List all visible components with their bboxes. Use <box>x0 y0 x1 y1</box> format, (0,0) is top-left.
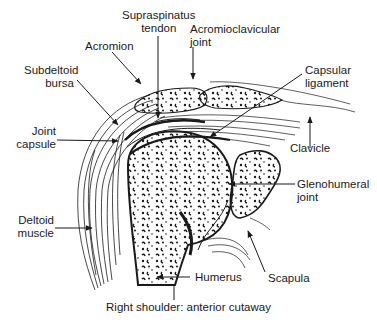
label-subdeltoid-bursa: Subdeltoid bursa <box>24 64 74 90</box>
label-glenohumeral-joint: Glenohumeral joint <box>297 178 369 204</box>
label-capsular-ligament: Capsular ligament <box>305 64 351 90</box>
label-acromioclavicular-joint: Acromioclavicular joint <box>190 23 280 49</box>
label-deltoid-muscle: Deltoid muscle <box>10 214 54 240</box>
label-supraspinatus-tendon: Supraspinatus tendon <box>122 9 196 35</box>
shoulder-anatomy-illustration <box>0 0 377 323</box>
label-humerus: Humerus <box>195 271 242 284</box>
label-joint-capsule: Joint capsule <box>10 125 56 151</box>
label-clavicle: Clavicle <box>290 142 330 155</box>
clavicle-shape <box>200 86 282 109</box>
label-acromion: Acromion <box>85 40 134 53</box>
label-scapula: Scapula <box>268 272 310 285</box>
acromion-shape <box>135 88 207 113</box>
figure-caption: Right shoulder: anterior cutaway <box>0 301 377 313</box>
humerus-head-shape <box>128 131 232 285</box>
